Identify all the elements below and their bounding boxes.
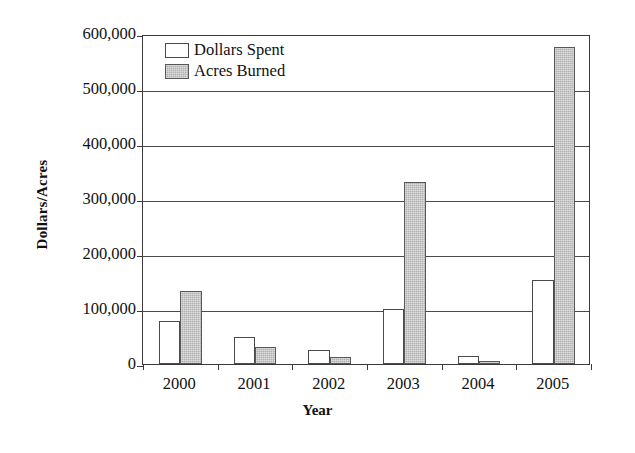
x-tick-mark bbox=[292, 364, 293, 370]
y-tick-mark bbox=[137, 146, 143, 147]
gridline bbox=[143, 201, 589, 202]
legend-label-acres-burned: Acres Burned bbox=[194, 63, 285, 80]
y-tick-mark bbox=[137, 201, 143, 202]
x-tick-mark bbox=[516, 364, 517, 370]
x-tick-mark bbox=[442, 364, 443, 370]
y-tick-mark bbox=[137, 311, 143, 312]
gridline bbox=[143, 256, 589, 257]
y-axis-tick-label: 400,000 bbox=[36, 136, 136, 153]
y-axis-tick-labels: 0100,000200,000300,000400,000500,000600,… bbox=[30, 0, 136, 453]
gridline bbox=[143, 91, 589, 92]
bar-2001-acres-burned bbox=[255, 347, 276, 364]
x-tick-mark bbox=[143, 364, 144, 370]
bar-2004-dollars-spent bbox=[458, 356, 479, 364]
x-tick-mark bbox=[218, 364, 219, 370]
y-axis-tick-label: 0 bbox=[36, 356, 136, 373]
bar-2003-acres-burned bbox=[404, 182, 425, 364]
bar-2000-acres-burned bbox=[180, 291, 201, 364]
y-tick-mark bbox=[137, 36, 143, 37]
y-axis-tick-label: 500,000 bbox=[36, 81, 136, 98]
bar-2003-dollars-spent bbox=[383, 309, 404, 364]
bar-2000-dollars-spent bbox=[159, 321, 180, 364]
y-axis-tick-label: 600,000 bbox=[36, 26, 136, 43]
legend-swatch-acres-burned bbox=[165, 64, 189, 79]
x-tick-mark bbox=[591, 364, 592, 370]
bar-2002-acres-burned bbox=[330, 357, 351, 364]
y-tick-mark bbox=[137, 91, 143, 92]
gridline bbox=[143, 311, 589, 312]
x-axis-title: Year bbox=[0, 402, 635, 419]
legend-item-acres-burned: Acres Burned bbox=[165, 61, 285, 82]
bar-2001-dollars-spent bbox=[234, 337, 255, 365]
legend: Dollars Spent Acres Burned bbox=[165, 40, 285, 82]
bar-2005-acres-burned bbox=[554, 47, 575, 364]
bar-2005-dollars-spent bbox=[532, 280, 553, 364]
x-axis-tick-label-2005: 2005 bbox=[508, 374, 598, 394]
legend-swatch-dollars-spent bbox=[165, 43, 189, 58]
x-tick-mark bbox=[367, 364, 368, 370]
y-tick-mark bbox=[137, 256, 143, 257]
bar-chart-figure: Dollars/Acres 0100,000200,000300,000400,… bbox=[0, 0, 635, 453]
gridline bbox=[143, 146, 589, 147]
legend-label-dollars-spent: Dollars Spent bbox=[194, 42, 284, 59]
legend-item-dollars-spent: Dollars Spent bbox=[165, 40, 285, 61]
bar-2004-acres-burned bbox=[479, 361, 500, 364]
y-axis-tick-label: 100,000 bbox=[36, 301, 136, 318]
y-axis-tick-label: 200,000 bbox=[36, 246, 136, 263]
bar-2002-dollars-spent bbox=[308, 350, 329, 364]
plot-area: Dollars Spent Acres Burned bbox=[142, 35, 590, 365]
y-axis-tick-label: 300,000 bbox=[36, 191, 136, 208]
